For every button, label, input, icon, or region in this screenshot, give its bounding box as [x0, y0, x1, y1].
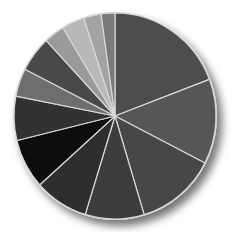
pie-slices: Slice 1: 19.2Slice 2: 13.3Slice 3: 12.8S…: [13, 12, 217, 220]
pie-chart: Slice 1: 19.2Slice 2: 13.3Slice 3: 12.8S…: [0, 0, 236, 232]
